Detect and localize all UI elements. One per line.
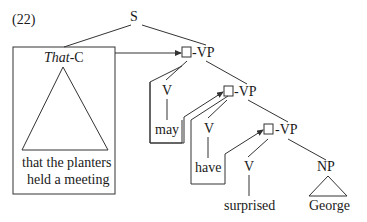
node-v-may: V — [162, 83, 172, 98]
that-c-italic: That — [44, 50, 71, 65]
node-v-have: V — [204, 121, 214, 136]
that-c-text-line1: that the planters — [22, 155, 111, 170]
branch-vp3-v — [248, 139, 268, 157]
word-have: have — [195, 160, 221, 175]
node-s: S — [130, 9, 138, 24]
vp2-empty-box — [224, 86, 233, 96]
example-number: (22) — [12, 12, 36, 28]
node-that-c: That-C — [44, 50, 84, 65]
word-surprised: surprised — [224, 198, 275, 213]
node-vp1: -VP — [192, 45, 215, 60]
node-vp2: -VP — [234, 84, 257, 99]
that-c-text-line2: held a meeting — [27, 172, 109, 187]
np-triangle — [309, 176, 347, 196]
branch-vp1-v — [166, 61, 187, 80]
node-v-surprised: V — [244, 159, 254, 174]
branch-s-thatc — [64, 25, 131, 47]
syntax-tree-diagram: (22) S That-C that the planters held a m… — [0, 0, 367, 222]
that-c-rest: -C — [70, 50, 84, 65]
branch-vp2-vp3 — [248, 100, 288, 122]
node-vp3: -VP — [275, 122, 298, 137]
branch-vp1-vp2 — [206, 61, 247, 84]
branch-vp3-np — [288, 139, 326, 160]
vp1-empty-box — [182, 47, 191, 57]
vp3-empty-box — [264, 124, 273, 134]
word-george: George — [309, 198, 350, 213]
word-may: may — [155, 122, 179, 137]
node-np: NP — [317, 159, 335, 174]
branch-s-vp1 — [142, 25, 206, 45]
that-c-triangle — [22, 67, 108, 150]
